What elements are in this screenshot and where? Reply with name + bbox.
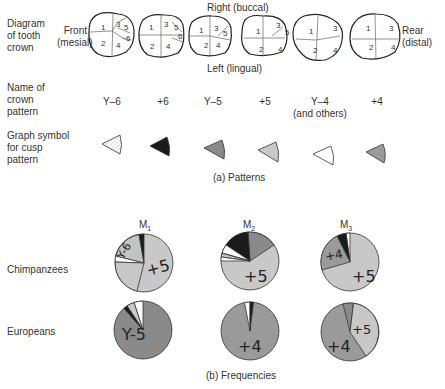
- svg-text:5: 5: [285, 28, 290, 37]
- label-line: crown: [7, 42, 45, 54]
- row-label-chimpanzees: Chimpanzees: [7, 264, 68, 276]
- svg-text:4: 4: [278, 45, 283, 54]
- col-sub: 3: [348, 225, 352, 232]
- column-m2: M2: [243, 219, 255, 235]
- row-label-name: Name of crown pattern: [7, 82, 45, 118]
- pattern-name: +6: [143, 96, 183, 108]
- pattern-name: Y–6: [92, 96, 132, 108]
- label-line: (mesial): [57, 37, 87, 49]
- svg-text:+4: +4: [238, 337, 262, 356]
- pattern-name: Y–5: [193, 96, 233, 108]
- svg-text:5: 5: [223, 29, 228, 38]
- svg-text:5: 5: [124, 23, 129, 32]
- label-line: Name of: [7, 82, 45, 94]
- orientation-top: Right (buccal): [207, 2, 269, 14]
- column-m3: M3: [340, 219, 352, 235]
- svg-text:1: 1: [149, 23, 154, 32]
- row-label-symbol: Graph symbol for cusp pattern: [7, 130, 69, 166]
- label-line: pattern: [7, 154, 69, 166]
- orientation-bottom: Left (lingual): [207, 63, 262, 75]
- label-line: Rear: [402, 25, 432, 37]
- svg-text:3: 3: [116, 20, 121, 29]
- svg-text:+4: +4: [324, 247, 344, 264]
- pie-chimp-m1: [115, 234, 173, 292]
- symbol-y5: [204, 140, 225, 159]
- pie-euro-m3: [321, 303, 379, 361]
- svg-text:3: 3: [164, 20, 169, 29]
- row-label-europeans: Europeans: [7, 326, 55, 338]
- label-line: pattern: [7, 106, 45, 118]
- pattern-name: +5: [245, 96, 285, 108]
- label-line: Diagram: [7, 18, 45, 30]
- svg-text:3: 3: [333, 24, 338, 33]
- label-line: crown: [7, 94, 45, 106]
- pie-euro-m2: [221, 302, 279, 360]
- svg-text:4: 4: [391, 43, 396, 52]
- svg-text:6: 6: [126, 34, 131, 43]
- pattern-name-main: Y–4: [290, 96, 350, 108]
- svg-text:2: 2: [369, 43, 374, 52]
- graph-symbols: [0, 0, 445, 389]
- pie-annotations: +5 Y-6 +5 +5 +4 Y-5 +4 +5 +4: [114, 241, 375, 356]
- column-m1: M1: [139, 219, 151, 235]
- pattern-name: Y–4 (and others): [290, 96, 350, 120]
- row-label-diagram: Diagram of tooth crown: [7, 18, 45, 54]
- label-line: for cusp: [7, 142, 69, 154]
- label-line: (distal): [402, 37, 432, 49]
- tooth-diagrams: [89, 13, 400, 61]
- symbol-y4: [313, 146, 334, 165]
- orientation-front: Front (mesial): [57, 25, 87, 49]
- caption-patterns: (a) Patterns: [213, 172, 265, 184]
- svg-text:2: 2: [204, 41, 209, 50]
- frequency-pies: +5 Y-6 +5 +5 +4 Y-5 +4 +5 +4: [0, 0, 445, 389]
- svg-text:+5: +5: [244, 267, 268, 286]
- symbol-plus4: [366, 144, 385, 163]
- symbol-plus5: [258, 142, 279, 162]
- svg-text:+5: +5: [352, 322, 371, 337]
- svg-text:4: 4: [333, 46, 338, 55]
- svg-text:5: 5: [174, 23, 179, 32]
- svg-text:4: 4: [166, 42, 171, 51]
- svg-text:+4: +4: [327, 337, 351, 356]
- svg-text:2: 2: [101, 39, 106, 48]
- orientation-rear: Rear (distal): [402, 25, 432, 49]
- svg-text:2: 2: [259, 45, 264, 54]
- caption-frequencies: (b) Frequencies: [206, 370, 276, 382]
- symbol-y6: [102, 135, 122, 154]
- svg-text:2: 2: [313, 46, 318, 55]
- col-sub: 2: [251, 225, 255, 232]
- svg-text:3: 3: [389, 24, 394, 33]
- svg-text:6: 6: [178, 32, 183, 41]
- cusp-numbers: 135 246 135 246 135 24 135 24 13 24 13 2…: [101, 20, 396, 55]
- svg-text:1: 1: [366, 24, 371, 33]
- label-line: of tooth: [7, 30, 45, 42]
- pie-chimp-m2: [221, 232, 279, 290]
- svg-text:2: 2: [150, 42, 155, 51]
- svg-text:3: 3: [276, 21, 281, 30]
- svg-text:Y-6: Y-6: [114, 241, 134, 263]
- label-line: Graph symbol: [7, 130, 69, 142]
- svg-text:4: 4: [216, 41, 221, 50]
- pattern-name-sub: (and others): [290, 108, 350, 120]
- pattern-name: +4: [357, 96, 397, 108]
- svg-text:Y-5: Y-5: [121, 325, 146, 344]
- svg-text:1: 1: [199, 26, 204, 35]
- svg-text:4: 4: [116, 41, 121, 50]
- svg-text:3: 3: [214, 24, 219, 33]
- symbol-plus6: [150, 137, 170, 156]
- label-line: Front: [57, 25, 87, 37]
- svg-text:1: 1: [101, 23, 106, 32]
- svg-text:1: 1: [256, 27, 261, 36]
- svg-text:+5: +5: [352, 267, 376, 286]
- svg-text:1: 1: [309, 27, 314, 36]
- pie-euro-m1: [114, 301, 172, 359]
- pie-chimp-m3: [321, 233, 379, 291]
- col-sub: 1: [147, 225, 151, 232]
- svg-text:+5: +5: [144, 255, 172, 279]
- tooth-crown-diagrams: 135 246 135 246 135 24 135 24 13 24 13 2…: [0, 0, 445, 389]
